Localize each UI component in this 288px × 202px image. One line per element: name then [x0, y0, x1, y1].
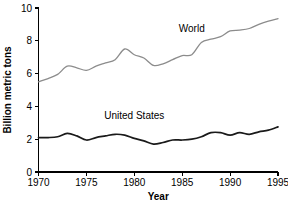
y-tick-label: 0 [26, 167, 32, 178]
x-tick-label: 1970 [27, 177, 50, 188]
x-tick-label: 1990 [219, 177, 242, 188]
x-axis-ticks: 197019751980198519901995 [27, 172, 288, 188]
series-label-united-states: United States [104, 110, 164, 121]
series-line-world [39, 19, 279, 82]
y-axis-group: 0246810 [21, 3, 39, 178]
chart-plot: 0246810 197019751980198519901995 WorldUn… [0, 0, 288, 202]
chart-container: 0246810 197019751980198519901995 WorldUn… [0, 0, 288, 202]
series-label-world: World [179, 23, 205, 34]
x-tick-label: 1995 [267, 177, 288, 188]
y-tick-label: 4 [26, 101, 32, 112]
x-tick-label: 1975 [75, 177, 98, 188]
series-annotation-group: WorldUnited States [104, 23, 204, 121]
y-tick-label: 8 [26, 35, 32, 46]
x-tick-label: 1985 [171, 177, 194, 188]
series-line-united-states [39, 127, 279, 144]
y-tick-label: 10 [21, 3, 33, 14]
x-axis-title: Year [148, 191, 169, 202]
y-tick-label: 2 [26, 134, 32, 145]
y-axis-title: Billion metric tons [2, 46, 13, 134]
y-axis-ticks: 0246810 [21, 3, 39, 178]
x-tick-label: 1980 [123, 177, 146, 188]
x-axis-group: 197019751980198519901995 [27, 172, 288, 188]
data-series-group [39, 19, 279, 144]
y-tick-label: 6 [26, 68, 32, 79]
